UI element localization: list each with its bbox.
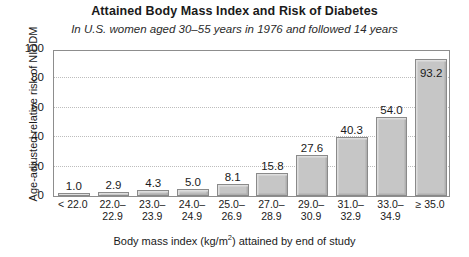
- bar-rect: [177, 189, 209, 196]
- bar: 15.8: [256, 49, 288, 196]
- bar: 8.1: [217, 49, 249, 196]
- bar-rect: [256, 173, 288, 196]
- bar-value-label: 27.6: [301, 142, 323, 154]
- bar-rect: [415, 59, 447, 196]
- x-axis-tick-label: 23.0–23.9: [132, 199, 172, 222]
- bar-rect: [58, 193, 90, 196]
- bar: 4.3: [137, 49, 169, 196]
- x-axis-tick-label: 24.0–24.9: [172, 199, 212, 222]
- y-axis-tick-label: 20: [0, 160, 44, 172]
- x-axis-tick-label: 33.0–34.9: [371, 199, 411, 222]
- bar-value-label: 2.9: [106, 179, 122, 191]
- chart-title: Attained Body Mass Index and Risk of Dia…: [0, 4, 469, 18]
- bar-value-label: 4.3: [145, 177, 161, 189]
- x-axis-title-suffix: ) attained by end of study: [232, 235, 356, 247]
- y-axis-tick-label: 40: [0, 130, 44, 142]
- bar-value-label: 40.3: [341, 124, 363, 136]
- bar: 2.9: [98, 49, 130, 196]
- x-axis-tick-label: ≥ 35.0: [410, 199, 450, 211]
- x-axis-tick-label: < 22.0: [53, 199, 93, 211]
- bar: 40.3: [336, 49, 368, 196]
- x-axis-tick-label: 31.0–32.9: [331, 199, 371, 222]
- chart-subtitle: In U.S. women aged 30–55 years in 1976 a…: [0, 23, 469, 35]
- bar-series: 1.02.94.35.08.115.827.640.354.093.2: [54, 51, 449, 196]
- y-axis-tick-label: 100: [0, 42, 44, 54]
- bar-value-label: 5.0: [185, 176, 201, 188]
- bar: 54.0: [376, 49, 408, 196]
- bar: 1.0: [58, 49, 90, 196]
- x-axis-tick-label: 29.0–30.9: [291, 199, 331, 222]
- chart-figure: Attained Body Mass Index and Risk of Dia…: [0, 0, 469, 257]
- x-axis-tick-labels: < 22.022.0–22.923.0–23.924.0–24.925.0–26…: [53, 199, 450, 231]
- bar-value-label: 93.2: [420, 67, 442, 79]
- x-axis-tick-label: 25.0–26.9: [212, 199, 252, 222]
- plot-area: 1.02.94.35.08.115.827.640.354.093.2: [53, 50, 450, 197]
- y-axis-tick-label: 60: [0, 101, 44, 113]
- bar-rect: [296, 155, 328, 196]
- bar-value-label: 8.1: [225, 171, 241, 183]
- bar-rect: [137, 190, 169, 196]
- bar-value-label: 1.0: [66, 180, 82, 192]
- x-axis-tick-label: 22.0–22.9: [93, 199, 133, 222]
- bar: 27.6: [296, 49, 328, 196]
- bar-value-label: 15.8: [261, 160, 283, 172]
- bar-rect: [217, 184, 249, 196]
- bar-value-label: 54.0: [380, 104, 402, 116]
- bar: 5.0: [177, 49, 209, 196]
- bar-rect: [98, 192, 130, 196]
- bar-rect: [336, 137, 368, 196]
- bar-rect: [376, 117, 408, 196]
- x-axis-tick-label: 27.0–28.9: [252, 199, 292, 222]
- bar: 93.2: [415, 49, 447, 196]
- x-axis-title-prefix: Body mass index (kg/m: [113, 235, 227, 247]
- y-axis-tick-label: 0: [0, 189, 44, 201]
- y-axis-tick-label: 80: [0, 71, 44, 83]
- x-axis-title: Body mass index (kg/m2) attained by end …: [0, 233, 469, 247]
